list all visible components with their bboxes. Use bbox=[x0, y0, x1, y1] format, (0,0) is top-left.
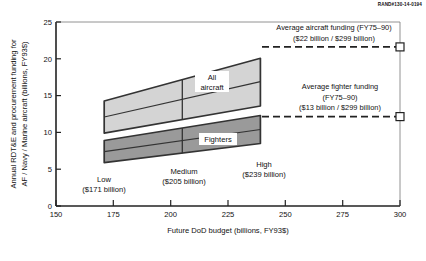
scenario-label-high: High ($239 billion) bbox=[242, 160, 286, 179]
y-axis-ticks: 0 5 10 15 20 25 bbox=[44, 18, 61, 211]
scenario-low-value: ($171 billion) bbox=[82, 185, 126, 194]
scenario-medium-title: Medium bbox=[170, 167, 197, 176]
x-tick-label: 275 bbox=[336, 210, 349, 219]
reference-marker-average-aircraft bbox=[396, 43, 404, 51]
x-tick-label: 300 bbox=[394, 210, 407, 219]
y-tick-label: 10 bbox=[44, 128, 52, 137]
x-tick-label: 150 bbox=[50, 210, 63, 219]
figure-chart-funding: RAND#130-14-0194 0 5 10 15 20 25 bbox=[0, 0, 426, 261]
x-axis-title: Future DoD budget (billions, FY93$) bbox=[167, 226, 289, 235]
scenario-label-low: Low ($171 billion) bbox=[82, 175, 126, 194]
y-axis-title-line2: AF / Navy / Marine aircraft (billions, F… bbox=[20, 41, 29, 187]
annotation-average-aircraft-line1: Average aircraft funding (FY75–90) bbox=[276, 23, 391, 32]
x-axis-ticks: 150 175 200 225 250 275 300 bbox=[50, 200, 407, 219]
y-tick-label: 15 bbox=[44, 91, 52, 100]
band-label-fighters: Fighters bbox=[199, 133, 237, 145]
y-tick-label: 25 bbox=[44, 18, 52, 27]
reference-marker-average-fighter bbox=[396, 113, 404, 121]
scenario-high-value: ($239 billion) bbox=[242, 170, 286, 179]
reference-line-average-aircraft: Average aircraft funding (FY75–90) ($22 … bbox=[262, 23, 404, 51]
band-label-all-aircraft: All aircraft bbox=[195, 71, 229, 92]
scenario-low-title: Low bbox=[97, 175, 111, 184]
band-label-all-aircraft-line1: All bbox=[208, 73, 217, 82]
annotation-average-aircraft-line2: ($22 billion / $299 billion) bbox=[293, 34, 375, 43]
rand-watermark: RAND#130-14-0194 bbox=[378, 2, 422, 7]
x-tick-label: 200 bbox=[164, 210, 177, 219]
scenario-label-medium: Medium ($205 billion) bbox=[162, 167, 206, 186]
annotation-average-fighter-line2: (FY75–90) bbox=[323, 93, 358, 102]
reference-line-average-fighter: Average fighter funding (FY75–90) ($13 b… bbox=[262, 82, 404, 121]
annotation-average-fighter-line3: ($13 billion / $299 billion) bbox=[299, 103, 381, 112]
annotation-average-fighter-line1: Average fighter funding bbox=[302, 82, 378, 91]
scenario-medium-value: ($205 billion) bbox=[162, 177, 206, 186]
chart-svg: 0 5 10 15 20 25 150 175 200 225 250 275 … bbox=[0, 0, 426, 261]
x-tick-label: 175 bbox=[107, 210, 120, 219]
y-tick-label: 5 bbox=[48, 165, 52, 174]
band-label-fighters-text: Fighters bbox=[204, 135, 232, 144]
x-tick-label: 250 bbox=[279, 210, 292, 219]
band-label-all-aircraft-line2: aircraft bbox=[200, 83, 224, 92]
y-tick-label: 20 bbox=[44, 55, 52, 64]
scenario-high-title: High bbox=[256, 160, 272, 169]
x-tick-label: 225 bbox=[222, 210, 235, 219]
y-axis-title-line1: Annual RDT&E and procurement funding for bbox=[9, 39, 18, 188]
